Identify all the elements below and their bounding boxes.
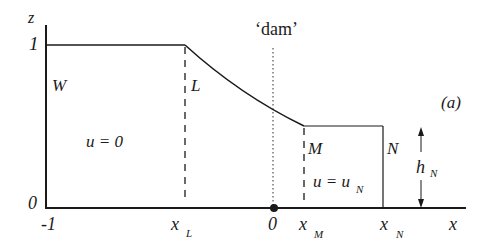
x-tick-xn-sub: N bbox=[395, 228, 404, 240]
x-tick-xm-sub: M bbox=[313, 228, 324, 240]
x-tick-xm: x bbox=[298, 214, 307, 234]
x-tick-0: 0 bbox=[268, 214, 277, 234]
x-tick-xn: x bbox=[379, 214, 388, 234]
x-tick-minus1: -1 bbox=[41, 214, 56, 234]
right-velocity-label: u = u bbox=[313, 172, 350, 191]
point-l-label: L bbox=[190, 76, 200, 95]
hn-label-sub: N bbox=[429, 167, 438, 179]
hn-arrow-up-head bbox=[418, 127, 424, 136]
z-axis-label: z bbox=[27, 9, 35, 26]
hn-label: h bbox=[416, 157, 425, 177]
x-tick-xl: x bbox=[170, 214, 179, 234]
panel-label: (a) bbox=[441, 93, 461, 112]
point-n-label: N bbox=[386, 139, 400, 158]
left-velocity-label: u = 0 bbox=[86, 132, 123, 151]
x-tick-xl-sub: L bbox=[185, 227, 192, 239]
dam-label: ‘dam’ bbox=[255, 19, 298, 39]
point-w-label: W bbox=[52, 76, 68, 95]
origin-dot bbox=[270, 204, 278, 212]
surface-rarefaction-curve bbox=[185, 45, 304, 126]
z-tick-0: 0 bbox=[28, 193, 37, 213]
x-axis-label: x bbox=[448, 214, 457, 234]
z-tick-1: 1 bbox=[29, 33, 39, 54]
right-velocity-sub: N bbox=[355, 183, 364, 195]
hn-arrow-down-head bbox=[418, 199, 424, 208]
dam-break-diagram: z 1 0 -1 x L 0 x M x N x ‘dam’ (a) W L M… bbox=[0, 0, 492, 252]
point-m-label: M bbox=[307, 139, 323, 158]
